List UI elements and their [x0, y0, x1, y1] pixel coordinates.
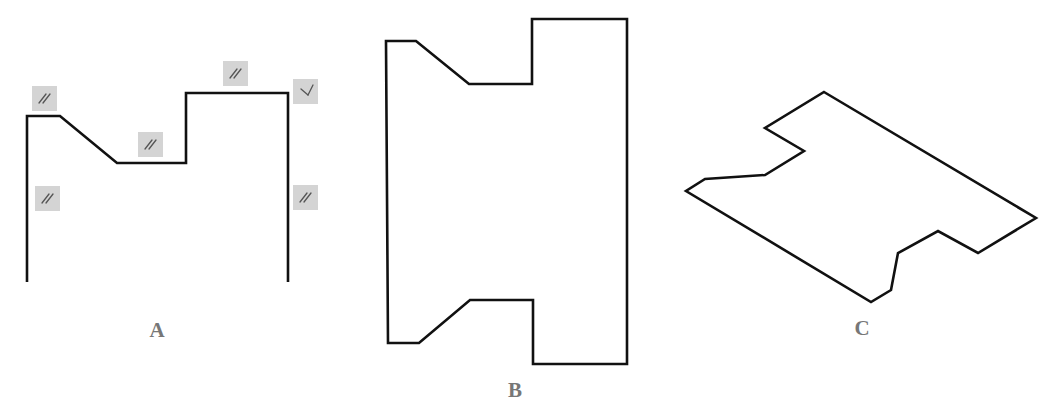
- figure-a-outline: [27, 93, 288, 282]
- diagram-canvas: [0, 0, 1062, 408]
- parallel-icon: [223, 61, 248, 86]
- figure-b-outline: [386, 19, 627, 364]
- parallel-icon: [32, 86, 57, 111]
- figure-c-polygon: [686, 92, 1036, 302]
- figure-c-outline: [686, 92, 1036, 302]
- parallel-icon: [35, 186, 60, 211]
- figure-a-constraint-icons: [32, 61, 318, 211]
- parallel-icon: [138, 132, 163, 157]
- figure-b-label: B: [508, 378, 522, 403]
- figure-b-polygon: [386, 19, 627, 364]
- perpendicular-icon: [293, 79, 318, 104]
- figure-a-sketch: [27, 61, 318, 282]
- figure-a-label: A: [149, 318, 164, 343]
- parallel-icon: [293, 185, 318, 210]
- figure-c-label: C: [854, 316, 869, 341]
